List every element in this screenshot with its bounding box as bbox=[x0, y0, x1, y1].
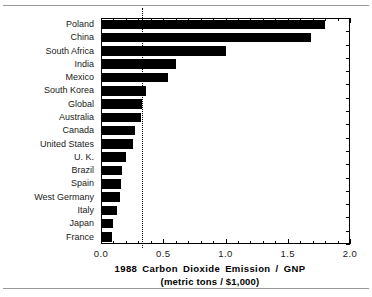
bar-japan bbox=[101, 219, 113, 229]
top-axis-tick bbox=[275, 18, 276, 21]
x-axis-minor-tick bbox=[151, 241, 152, 244]
x-axis-minor-tick bbox=[188, 241, 189, 244]
right-axis-tick bbox=[346, 124, 350, 125]
bar-india bbox=[101, 59, 176, 69]
x-axis-tick-label: 0.0 bbox=[81, 248, 121, 259]
right-axis-tick bbox=[346, 31, 350, 32]
x-axis-subtitle: (metric tons / $1,000) bbox=[60, 276, 360, 287]
right-axis-tick bbox=[346, 217, 350, 218]
top-axis-tick bbox=[238, 18, 239, 21]
figure-container: PolandChinaSouth AfricaIndiaMexicoSouth … bbox=[0, 0, 372, 297]
top-axis-tick bbox=[176, 18, 177, 21]
bar-south-korea bbox=[101, 86, 146, 96]
bar-south-africa bbox=[101, 46, 226, 56]
category-label: Italy bbox=[0, 204, 98, 217]
top-axis-tick bbox=[288, 18, 289, 23]
bar-china bbox=[101, 33, 311, 43]
right-axis-tick bbox=[346, 204, 350, 205]
top-axis-tick bbox=[113, 18, 114, 21]
category-label: Spain bbox=[0, 177, 98, 190]
category-label: Japan bbox=[0, 217, 98, 230]
top-divider-rule bbox=[3, 5, 369, 6]
category-label: Poland bbox=[0, 18, 98, 31]
right-axis-tick bbox=[346, 138, 350, 139]
category-label: France bbox=[0, 231, 98, 244]
category-label: United States bbox=[0, 138, 98, 151]
category-label: Mexico bbox=[0, 71, 98, 84]
bar-row bbox=[101, 138, 350, 151]
bar-australia bbox=[101, 113, 141, 123]
bar-row bbox=[101, 204, 350, 217]
x-axis-minor-tick bbox=[313, 241, 314, 244]
x-axis-tick-label: 2.0 bbox=[330, 248, 370, 259]
x-axis-major-tick bbox=[101, 239, 102, 244]
right-axis-tick bbox=[346, 98, 350, 99]
bar-italy bbox=[101, 206, 117, 216]
x-axis-minor-tick bbox=[201, 241, 202, 244]
bar-row bbox=[101, 45, 350, 58]
top-axis-tick bbox=[226, 18, 227, 23]
x-axis-minor-tick bbox=[213, 241, 214, 244]
right-axis-tick bbox=[346, 84, 350, 85]
top-axis-tick bbox=[300, 18, 301, 21]
top-axis-tick bbox=[151, 18, 152, 21]
top-axis-tick bbox=[126, 18, 127, 21]
right-axis-tick bbox=[346, 111, 350, 112]
x-axis-major-tick bbox=[288, 239, 289, 244]
x-axis-major-tick bbox=[163, 239, 164, 244]
category-label: Canada bbox=[0, 124, 98, 137]
bar-row bbox=[101, 177, 350, 190]
x-axis-minor-tick bbox=[113, 241, 114, 244]
category-label: West Germany bbox=[0, 191, 98, 204]
bar-row bbox=[101, 164, 350, 177]
bar-row bbox=[101, 191, 350, 204]
top-axis-tick bbox=[138, 18, 139, 21]
category-label: India bbox=[0, 58, 98, 71]
x-axis-minor-tick bbox=[138, 241, 139, 244]
top-axis-tick bbox=[350, 18, 351, 23]
right-axis-tick bbox=[346, 244, 350, 245]
x-axis-tick-label: 1.5 bbox=[268, 248, 308, 259]
x-axis-tick-label: 0.5 bbox=[143, 248, 183, 259]
bar-canada bbox=[101, 126, 135, 136]
category-label: South Korea bbox=[0, 84, 98, 97]
global-reference-line bbox=[142, 8, 143, 248]
x-axis-minor-tick bbox=[263, 241, 264, 244]
right-axis-tick bbox=[346, 231, 350, 232]
bar-brazil bbox=[101, 166, 122, 176]
bar-france bbox=[101, 232, 112, 242]
bar-west-germany bbox=[101, 192, 120, 202]
x-axis-title: 1988 Carbon Dioxide Emission / GNP bbox=[60, 263, 360, 274]
top-axis-tick bbox=[201, 18, 202, 21]
bar-row bbox=[101, 111, 350, 124]
x-axis-major-tick bbox=[226, 239, 227, 244]
category-label: U. K. bbox=[0, 151, 98, 164]
category-label: China bbox=[0, 31, 98, 44]
bar-row bbox=[101, 98, 350, 111]
top-axis-tick bbox=[325, 18, 326, 21]
category-axis-labels: PolandChinaSouth AfricaIndiaMexicoSouth … bbox=[0, 18, 98, 244]
bar-series bbox=[101, 18, 350, 244]
top-axis-tick bbox=[213, 18, 214, 21]
right-axis-tick bbox=[346, 164, 350, 165]
right-axis-tick bbox=[346, 178, 350, 179]
bar-united-states bbox=[101, 139, 133, 149]
top-axis-tick bbox=[188, 18, 189, 21]
category-label: South Africa bbox=[0, 45, 98, 58]
bar-row bbox=[101, 31, 350, 44]
bar-row bbox=[101, 84, 350, 97]
x-axis-minor-tick bbox=[250, 241, 251, 244]
right-axis-tick bbox=[346, 151, 350, 152]
top-axis-tick bbox=[101, 18, 102, 23]
bar-mexico bbox=[101, 73, 168, 83]
x-axis-tick-label: 1.0 bbox=[206, 248, 246, 259]
top-axis-tick bbox=[313, 18, 314, 21]
right-axis-tick bbox=[346, 71, 350, 72]
top-axis-tick bbox=[338, 18, 339, 21]
top-axis-tick bbox=[163, 18, 164, 23]
bar-u-k bbox=[101, 152, 126, 162]
bar-row bbox=[101, 217, 350, 230]
bar-poland bbox=[101, 20, 325, 30]
category-label: Australia bbox=[0, 111, 98, 124]
bar-row bbox=[101, 58, 350, 71]
